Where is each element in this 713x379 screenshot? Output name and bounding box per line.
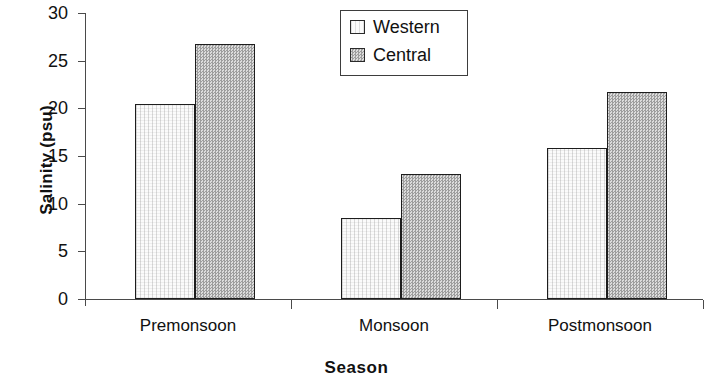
x-tick-mark: [703, 300, 704, 309]
y-tick-label: 25: [32, 52, 68, 70]
legend-swatch-western-icon: [350, 20, 365, 34]
legend: Western Central: [340, 10, 468, 76]
y-tick-mark: [78, 13, 85, 14]
legend-label-western: Western: [373, 18, 440, 36]
bar-monsoon-western: [341, 218, 401, 299]
x-tick-label-premonsoon: Premonsoon: [85, 316, 291, 336]
y-tick-label: 5: [32, 242, 68, 260]
legend-label-central: Central: [373, 46, 431, 64]
legend-item-central: Central: [350, 46, 431, 64]
y-tick-label: 20: [32, 99, 68, 117]
y-tick-mark: [78, 299, 85, 300]
x-tick-label-monsoon: Monsoon: [291, 316, 497, 336]
y-tick-mark: [78, 251, 85, 252]
bar-postmonsoon-central: [607, 92, 667, 299]
y-tick-mark: [78, 61, 85, 62]
legend-item-western: Western: [350, 18, 440, 36]
legend-swatch-central-icon: [350, 48, 365, 62]
x-tick-label-postmonsoon: Postmonsoon: [497, 316, 703, 336]
bar-postmonsoon-western: [547, 148, 607, 299]
x-tick-mark: [85, 294, 86, 306]
bar-premonsoon-central: [195, 44, 255, 299]
y-tick-label: 30: [32, 4, 68, 22]
y-tick-mark: [78, 156, 85, 157]
y-tick-label: 0: [32, 290, 68, 308]
x-axis-line: [85, 299, 703, 300]
y-tick-label: 10: [32, 195, 68, 213]
x-axis-title: Season: [0, 358, 713, 378]
y-tick-mark: [78, 108, 85, 109]
y-axis-line: [85, 13, 86, 300]
bar-premonsoon-western: [135, 104, 195, 299]
x-tick-mark: [497, 300, 498, 309]
bar-monsoon-central: [401, 174, 461, 299]
x-tick-mark: [291, 300, 292, 309]
y-tick-mark: [78, 204, 85, 205]
salinity-bar-chart: Salinity (psu) 051015202530 PremonsoonMo…: [0, 0, 713, 379]
y-tick-label: 15: [32, 147, 68, 165]
